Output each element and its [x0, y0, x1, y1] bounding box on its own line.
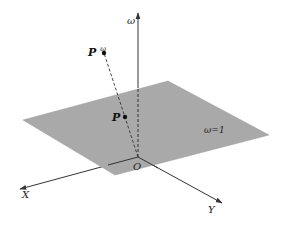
omega-axis-label: ω	[127, 15, 135, 26]
point-p-omega-letter: P	[87, 46, 97, 59]
origin-label: O	[133, 161, 141, 172]
plane-label: ω=1	[204, 125, 225, 135]
x-axis-label: X	[21, 189, 30, 200]
point-p-omega-label: P ω	[87, 45, 106, 59]
point-p-label: P	[111, 111, 121, 124]
homogeneous-coordinates-diagram: ω P ω P ω=1 O X Y	[0, 0, 283, 228]
y-axis-label: Y	[208, 204, 216, 215]
diagram-canvas: ω P ω P ω=1 O X Y	[0, 0, 283, 228]
point-p-omega-superscript: ω	[100, 45, 106, 53]
point-p	[123, 115, 127, 119]
